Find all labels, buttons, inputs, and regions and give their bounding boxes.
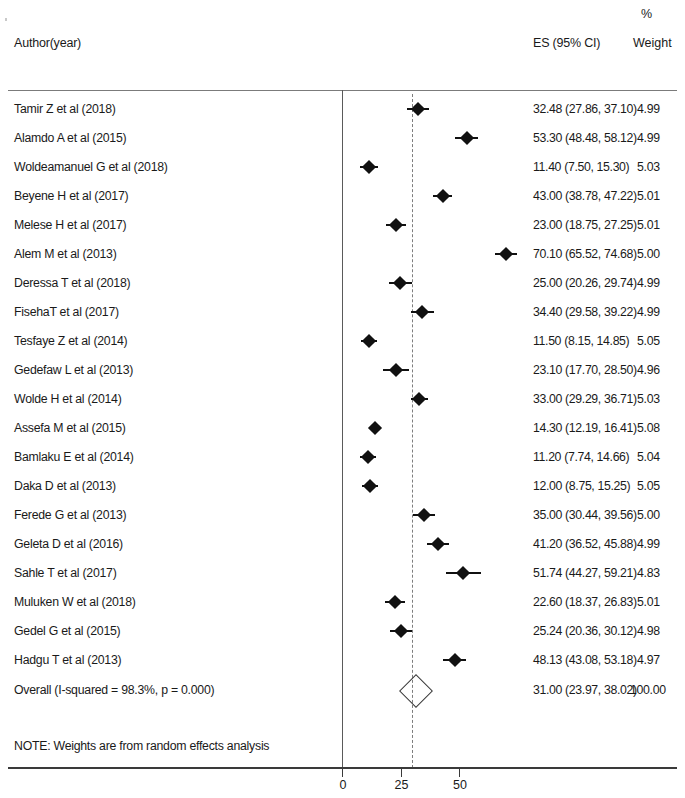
- study-label: Gedel G et al (2015): [14, 624, 120, 638]
- effect-size-value: 11.20 (7.74, 14.66): [533, 450, 629, 464]
- confidence-interval-marker: [443, 659, 467, 661]
- study-label: Daka D et al (2013): [14, 479, 116, 493]
- table-row: Daka D et al (2013)12.00 (8.75, 15.25)5.…: [0, 472, 685, 501]
- table-row: Beyene H et al (2017)43.00 (38.78, 47.22…: [0, 182, 685, 211]
- study-label: Deressa T et al (2018): [14, 276, 130, 290]
- study-label: Wolde H et al (2014): [14, 392, 122, 406]
- weight-value: 4.99: [637, 131, 660, 145]
- effect-size-point: [417, 508, 431, 522]
- effect-size-point: [412, 392, 426, 406]
- column-header-author: Author(year): [14, 36, 81, 50]
- table-row: Sahle T et al (2017)51.74 (44.27, 59.21)…: [0, 559, 685, 588]
- confidence-interval-marker: [433, 195, 453, 197]
- effect-size-value: 14.30 (12.19, 16.41): [533, 421, 637, 435]
- note-text: NOTE: Weights are from random effects an…: [14, 739, 269, 753]
- effect-size-point: [431, 537, 445, 551]
- effect-size-point: [394, 624, 408, 638]
- effect-size-point: [362, 334, 376, 348]
- effect-size-point: [388, 595, 402, 609]
- effect-size-value: 25.24 (20.36, 30.12): [533, 624, 637, 638]
- forest-plot: Tamir Z et al (2018)32.48 (27.86, 37.10)…: [0, 90, 685, 768]
- effect-size-value: 34.40 (29.58, 39.22): [533, 305, 637, 319]
- effect-size-point: [389, 218, 403, 232]
- weight-value: 5.05: [637, 334, 660, 348]
- weight-value: 4.99: [637, 102, 660, 116]
- confidence-interval-marker: [495, 253, 516, 255]
- study-label: Bamlaku E et al (2014): [14, 450, 134, 464]
- overall-effect-size-value: 31.00 (23.97, 38.02): [533, 683, 637, 697]
- confidence-interval-marker: [390, 630, 413, 632]
- weight-value: 5.00: [637, 508, 660, 522]
- study-label: Hadgu T et al (2013): [14, 653, 121, 667]
- effect-size-value: 41.20 (36.52, 45.88): [533, 537, 637, 551]
- effect-size-value: 43.00 (38.78, 47.22): [533, 189, 637, 203]
- table-row: Woldeamanuel G et al (2018)11.40 (7.50, …: [0, 153, 685, 182]
- confidence-interval-marker: [386, 224, 406, 226]
- study-label: Tamir Z et al (2018): [14, 102, 116, 116]
- study-label: Beyene H et al (2017): [14, 189, 128, 203]
- effect-size-point: [460, 131, 474, 145]
- effect-size-value: 70.10 (65.52, 74.68): [533, 247, 637, 261]
- confidence-interval-marker: [360, 456, 376, 458]
- axis-tick-label: 25: [395, 778, 409, 792]
- effect-size-point: [436, 189, 450, 203]
- weight-value: 5.00: [637, 247, 660, 261]
- table-row: Melese H et al (2017)23.00 (18.75, 27.25…: [0, 211, 685, 240]
- axis-tick-label: 50: [453, 778, 467, 792]
- study-label: Melese H et al (2017): [14, 218, 126, 232]
- overall-weight-value: 100.00: [630, 683, 666, 697]
- effect-size-point: [411, 102, 425, 116]
- weight-value: 4.83: [637, 566, 660, 580]
- scan-speckle: [5, 18, 7, 21]
- study-label: Tesfaye Z et al (2014): [14, 334, 127, 348]
- weight-value: 5.04: [637, 450, 660, 464]
- weight-value: 5.08: [637, 421, 660, 435]
- table-row: Alem M et al (2013)70.10 (65.52, 74.68)5…: [0, 240, 685, 269]
- axis-tick-label: 0: [340, 778, 347, 792]
- axis-tick: [459, 768, 460, 777]
- confidence-interval-marker: [389, 282, 411, 284]
- table-row: Assefa M et al (2015)14.30 (12.19, 16.41…: [0, 414, 685, 443]
- study-label: Alamdo A et al (2015): [14, 131, 126, 145]
- weight-value: 4.99: [637, 537, 660, 551]
- effect-size-value: 11.40 (7.50, 15.30): [533, 160, 629, 174]
- effect-size-value: 12.00 (8.75, 15.25): [533, 479, 630, 493]
- effect-size-point: [363, 479, 377, 493]
- summary-diamond: [399, 674, 433, 708]
- effect-size-value: 33.00 (29.29, 36.71): [533, 392, 637, 406]
- confidence-interval-marker: [385, 601, 405, 603]
- confidence-interval-marker: [360, 166, 378, 168]
- table-row: Ferede G et al (2013)35.00 (30.44, 39.56…: [0, 501, 685, 530]
- table-row: Alamdo A et al (2015)53.30 (48.48, 58.12…: [0, 124, 685, 153]
- axis-tick: [401, 768, 402, 777]
- weight-value: 4.97: [637, 653, 660, 667]
- confidence-interval-marker: [411, 398, 428, 400]
- confidence-interval-marker: [371, 427, 381, 429]
- table-row: Bamlaku E et al (2014)11.20 (7.74, 14.66…: [0, 443, 685, 472]
- overall-summary-row: Overall (I-squared = 98.3%, p = 0.000)31…: [0, 675, 685, 707]
- table-row: Tamir Z et al (2018)32.48 (27.86, 37.10)…: [0, 95, 685, 124]
- table-row: Tesfaye Z et al (2014)11.50 (8.15, 14.85…: [0, 327, 685, 356]
- effect-size-value: 51.74 (44.27, 59.21): [533, 566, 637, 580]
- weight-value: 5.05: [637, 479, 660, 493]
- effect-size-value: 22.60 (18.37, 26.83): [533, 595, 637, 609]
- weight-value: 5.03: [637, 160, 660, 174]
- effect-size-point: [393, 276, 407, 290]
- confidence-interval-marker: [407, 108, 429, 110]
- table-row: FisehaT et al (2017)34.40 (29.58, 39.22)…: [0, 298, 685, 327]
- table-row: Geleta D et al (2016)41.20 (36.52, 45.88…: [0, 530, 685, 559]
- confidence-interval-marker: [413, 514, 434, 516]
- effect-size-value: 25.00 (20.26, 29.74): [533, 276, 637, 290]
- effect-size-point: [361, 450, 375, 464]
- study-label: Geleta D et al (2016): [14, 537, 123, 551]
- effect-size-value: 23.10 (17.70, 28.50): [533, 363, 637, 377]
- confidence-interval-marker: [383, 369, 408, 371]
- effect-size-point: [415, 305, 429, 319]
- table-row: Wolde H et al (2014)33.00 (29.29, 36.71)…: [0, 385, 685, 414]
- weight-value: 5.01: [637, 595, 660, 609]
- confidence-interval-marker: [427, 543, 449, 545]
- study-label: Assefa M et al (2015): [14, 421, 126, 435]
- table-row: Hadgu T et al (2013)48.13 (43.08, 53.18)…: [0, 646, 685, 675]
- confidence-interval-marker: [362, 485, 377, 487]
- weight-value: 5.01: [637, 189, 660, 203]
